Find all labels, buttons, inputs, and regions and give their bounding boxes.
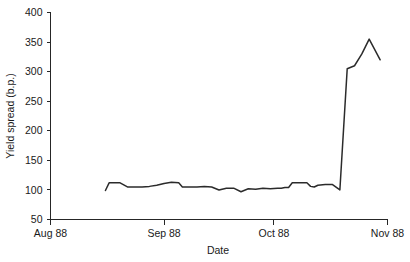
x-tick-label: Nov 88 (371, 227, 404, 239)
series-line-yield-spread (105, 39, 380, 192)
y-axis-ticks: 50100150200250300350400 (25, 6, 51, 225)
y-tick-label: 150 (25, 154, 43, 166)
x-axis-title: Date (207, 244, 229, 256)
chart-plot-area: 50100150200250300350400 Aug 88Sep 88Oct … (0, 0, 410, 262)
y-tick-label: 50 (31, 213, 43, 225)
y-tick-label: 300 (25, 65, 43, 77)
x-tick-label: Oct 88 (258, 227, 289, 239)
y-tick-label: 400 (25, 6, 43, 18)
y-tick-label: 200 (25, 124, 43, 136)
y-axis-title: Yield spread (b.p.) (4, 73, 16, 158)
y-tick-label: 100 (25, 184, 43, 196)
x-axis-ticks: Aug 88Sep 88Oct 88Nov 88 (34, 220, 404, 239)
x-tick-label: Aug 88 (34, 227, 67, 239)
y-tick-label: 250 (25, 95, 43, 107)
yield-spread-chart: 50100150200250300350400 Aug 88Sep 88Oct … (0, 0, 410, 262)
y-tick-label: 350 (25, 36, 43, 48)
x-tick-label: Sep 88 (147, 227, 180, 239)
